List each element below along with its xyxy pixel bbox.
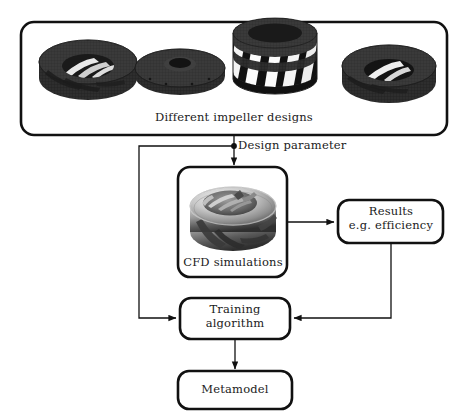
diagram-canvas: Different impeller designs Design parame… (0, 0, 469, 415)
impeller-shrouded-open-eye (342, 45, 436, 103)
cfd-impeller-render (190, 187, 277, 251)
impeller-flat-disc-hub (135, 49, 225, 95)
impeller-shrouded-curved-blades (39, 40, 137, 100)
results-label-line1: Results (338, 205, 444, 219)
design-parameter-edge-label: Design parameter (238, 139, 388, 153)
gallery-caption: Different impeller designs (21, 111, 447, 125)
cfd-simulations-label: CFD simulations (178, 256, 288, 270)
training-label-line2: algorithm (180, 317, 290, 331)
training-algorithm-label: Training algorithm (180, 303, 290, 330)
edge-results-to-training (294, 243, 391, 318)
training-label-line1: Training (180, 303, 290, 317)
results-label-line2: e.g. efficiency (338, 219, 444, 233)
metamodel-label: Metamodel (178, 383, 292, 397)
impeller-tall-cage (226, 18, 320, 94)
results-label: Results e.g. efficiency (338, 205, 444, 232)
